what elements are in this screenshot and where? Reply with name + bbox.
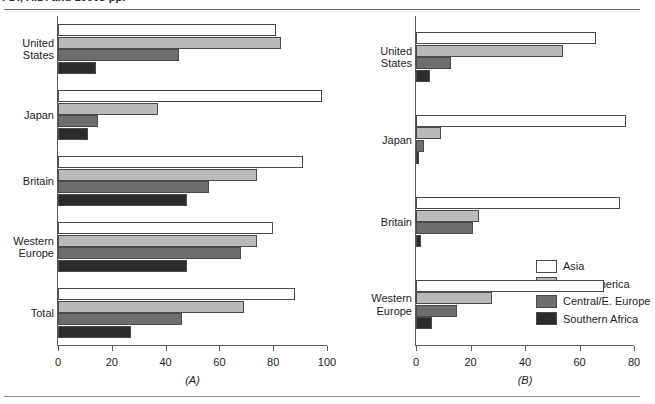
bar-central-e-europe: [416, 305, 457, 317]
x-axis-tick-label: 40: [519, 356, 531, 368]
category-label: Western Europe: [354, 292, 412, 317]
x-axis-tick-label: 80: [267, 356, 279, 368]
bar-asia: [58, 222, 273, 234]
bar-latin-america: [58, 37, 281, 49]
bar-central-e-europe: [58, 115, 98, 127]
bar-row: [58, 49, 327, 61]
bar-row: [58, 169, 327, 181]
bar-row: [416, 127, 634, 139]
bar-row: [58, 235, 327, 247]
bar-row: [416, 292, 634, 304]
bar-asia: [58, 156, 303, 168]
x-axis-tick: [525, 346, 526, 351]
bar-group: [58, 222, 327, 272]
bar-central-e-europe: [58, 247, 241, 259]
x-axis-tick-label: 0: [413, 356, 419, 368]
bar-latin-america: [58, 235, 257, 247]
bar-central-e-europe: [58, 313, 182, 325]
bar-central-e-europe: [416, 222, 473, 234]
bar-asia: [58, 288, 295, 300]
bar-row: [58, 260, 327, 272]
bar-row: [58, 194, 327, 206]
bar-row: [416, 305, 634, 317]
x-axis-tick: [580, 346, 581, 351]
x-axis-tick: [112, 346, 113, 351]
figure-caption-text: FDI, A.D. and 1990s pp.: [0, 0, 644, 3]
bar-asia: [58, 24, 276, 36]
bar-row: [58, 301, 327, 313]
bar-latin-america: [58, 169, 257, 181]
category-label: United States: [354, 45, 412, 70]
bar-latin-america: [58, 301, 244, 313]
bar-southern-africa: [416, 152, 419, 164]
bar-southern-africa: [58, 128, 88, 140]
bar-row: [416, 235, 634, 247]
panel-label-a: (A): [185, 374, 200, 386]
bar-southern-africa: [58, 194, 187, 206]
category-label: Western Europe: [4, 235, 54, 260]
bar-row: [58, 313, 327, 325]
bar-asia: [416, 197, 620, 209]
bar-row: [58, 90, 327, 102]
bar-row: [58, 247, 327, 259]
bar-central-e-europe: [58, 49, 179, 61]
bar-asia: [416, 115, 626, 127]
category-label: Total: [4, 307, 54, 320]
x-axis-tick-label: 60: [213, 356, 225, 368]
bar-asia: [58, 90, 322, 102]
bar-row: [58, 128, 327, 140]
bar-latin-america: [416, 127, 441, 139]
bar-row: [416, 45, 634, 57]
x-axis-tick: [219, 346, 220, 351]
bar-row: [58, 24, 327, 36]
x-axis-tick-label: 40: [159, 356, 171, 368]
category-label: Britain: [4, 175, 54, 188]
x-axis-tick-label: 100: [318, 356, 336, 368]
bar-row: [416, 222, 634, 234]
bar-group: [416, 280, 634, 330]
bar-latin-america: [416, 292, 492, 304]
category-label: Japan: [4, 109, 54, 122]
bar-row: [416, 57, 634, 69]
x-axis-tick-label: 0: [55, 356, 61, 368]
x-axis-tick: [471, 346, 472, 351]
category-label: United States: [4, 37, 54, 62]
bar-group: [416, 115, 634, 165]
bar-southern-africa: [416, 235, 421, 247]
plot-area-a: (A) United StatesJapanBritainWestern Eur…: [57, 16, 327, 346]
bar-asia: [416, 280, 604, 292]
bar-southern-africa: [58, 326, 131, 338]
category-label: Japan: [354, 134, 412, 147]
bar-row: [416, 115, 634, 127]
x-axis-tick-label: 20: [464, 356, 476, 368]
bar-row: [58, 288, 327, 300]
figure-caption: FDI, A.D. and 1990s pp.: [0, 0, 644, 7]
x-axis-tick: [327, 346, 328, 351]
x-axis-tick: [416, 346, 417, 351]
bar-latin-america: [416, 45, 563, 57]
category-label: Britain: [354, 216, 412, 229]
bar-row: [416, 152, 634, 164]
bar-row: [58, 222, 327, 234]
bar-row: [416, 317, 634, 329]
bar-row: [58, 156, 327, 168]
horizontal-rule-top: [4, 9, 640, 10]
bar-southern-africa: [58, 260, 187, 272]
figure-container: (A) United StatesJapanBritainWestern Eur…: [0, 12, 644, 394]
x-axis-tick: [58, 346, 59, 351]
bar-row: [58, 115, 327, 127]
horizontal-rule-bottom: [4, 396, 640, 397]
x-axis-tick: [166, 346, 167, 351]
bar-group: [58, 288, 327, 338]
bar-row: [416, 140, 634, 152]
x-axis-line-a: [58, 345, 327, 346]
x-axis-tick-label: 20: [106, 356, 118, 368]
bar-latin-america: [416, 210, 479, 222]
bar-row: [58, 37, 327, 49]
bar-group: [58, 90, 327, 140]
bar-southern-africa: [58, 62, 96, 74]
bar-central-e-europe: [416, 57, 451, 69]
bar-row: [416, 210, 634, 222]
x-axis-tick-label: 80: [628, 356, 640, 368]
bar-central-e-europe: [58, 181, 209, 193]
